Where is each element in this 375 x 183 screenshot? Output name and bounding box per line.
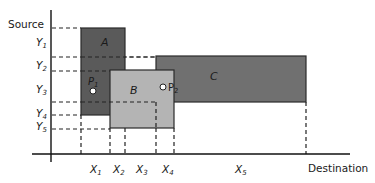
y-axis-title: Source <box>8 18 44 30</box>
y-tick-1: Y1 <box>36 36 47 50</box>
y-tick-3: Y3 <box>36 83 47 97</box>
x-tick-2: X2 <box>112 163 125 177</box>
x-tick-4: X4 <box>161 163 174 177</box>
diagram-canvas: A B C P1 P2 Source Y1 Y2 Y3 Y4 Y5 X1 X2 … <box>0 0 375 183</box>
x-tick-1: X1 <box>89 163 102 177</box>
rect-c <box>156 56 306 102</box>
y-tick-5: Y5 <box>36 120 47 134</box>
rect-b <box>110 70 174 128</box>
x-tick-3: X3 <box>135 163 148 177</box>
x-axis-title: Destination <box>308 162 368 174</box>
y-tick-2: Y2 <box>36 59 47 73</box>
rect-c-label: C <box>210 70 218 83</box>
point-p2-icon <box>160 84 166 90</box>
rect-b-label: B <box>130 84 138 97</box>
y-tick-4: Y4 <box>36 107 47 121</box>
x-tick-5: X5 <box>234 163 247 177</box>
rect-a-label: A <box>100 36 109 49</box>
